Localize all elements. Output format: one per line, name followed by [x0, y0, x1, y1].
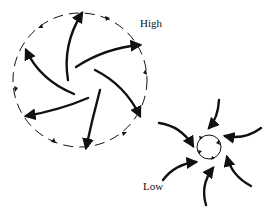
high-boundary-dashed [13, 13, 147, 147]
low-inflow-arrows [159, 100, 261, 205]
high-pressure-system [13, 13, 147, 148]
high-label: High [140, 17, 162, 29]
high-outflow-arrows [26, 13, 140, 148]
low-pressure-system [159, 100, 261, 205]
high-boundary-arrowheads [14, 16, 147, 143]
pressure-diagram [0, 0, 274, 220]
low-label: Low [143, 180, 163, 192]
